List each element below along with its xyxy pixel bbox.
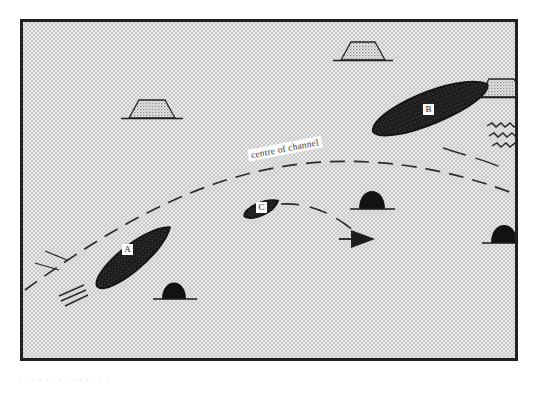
vessel-B-label: B xyxy=(423,104,434,115)
buoy-right xyxy=(482,225,518,243)
centre-of-channel-line xyxy=(25,161,515,290)
hill-top-centre xyxy=(333,42,393,61)
diagram-vector-layer xyxy=(23,22,515,358)
course-arrow xyxy=(281,204,375,248)
buoy-lower-left xyxy=(153,283,197,300)
vessel-C-label: C xyxy=(256,202,267,213)
hill-left xyxy=(121,100,183,119)
vessel-A[interactable] xyxy=(89,218,178,295)
cropped-caption-text: · · · · · · · · · · · · · · xyxy=(18,376,518,390)
diagram-frame xyxy=(20,19,518,361)
figure-canvas: centre of channel A B C · · · · · · · · … xyxy=(0,0,538,393)
vessel-A-wake xyxy=(35,251,88,306)
buoy-centre xyxy=(350,191,395,209)
vessel-B-wake xyxy=(443,123,518,170)
vessel-A-label: A xyxy=(122,244,133,255)
